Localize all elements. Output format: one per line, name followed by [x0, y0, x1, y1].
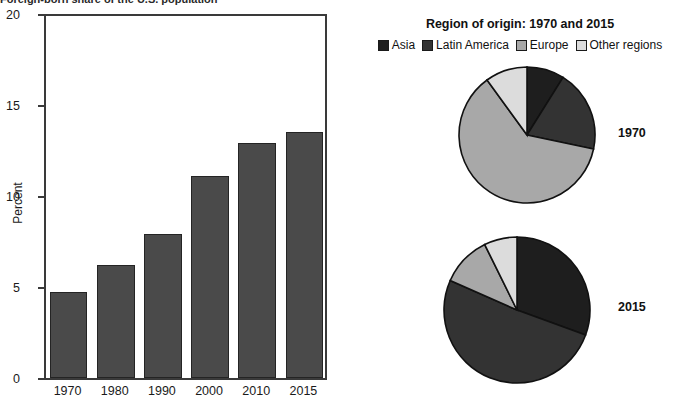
bar — [97, 265, 135, 378]
y-axis-tick-label: 5 — [0, 281, 20, 295]
pie-slices — [457, 65, 597, 205]
legend-label: Asia — [392, 38, 415, 52]
legend-item[interactable]: Other regions — [576, 38, 663, 52]
x-axis-tick-label: 2015 — [273, 384, 333, 398]
pie-slices — [442, 235, 592, 385]
legend-item[interactable]: Asia — [378, 38, 415, 52]
legend-label: Other regions — [590, 38, 663, 52]
bar — [191, 176, 229, 378]
legend-swatch-icon — [422, 40, 433, 51]
pie-legend: AsiaLatin AmericaEuropeOther regions — [350, 38, 690, 52]
legend-item[interactable]: Latin America — [422, 38, 509, 52]
legend-label: Europe — [530, 38, 569, 52]
pie-chart — [442, 235, 592, 385]
bar — [50, 292, 88, 378]
legend-swatch-icon — [576, 40, 587, 51]
y-axis-tick-label: 20 — [0, 8, 20, 22]
bar — [144, 234, 182, 378]
y-axis-tick-label: 0 — [0, 372, 20, 386]
y-axis-tick-label: 10 — [0, 190, 20, 204]
legend-label: Latin America — [436, 38, 509, 52]
bar-plot-area — [44, 14, 327, 380]
y-axis-tick-label: 15 — [0, 99, 20, 113]
bar — [238, 143, 276, 378]
legend-item[interactable]: Europe — [516, 38, 569, 52]
bar — [286, 132, 324, 378]
bar-chart: Percent 051015204.719706.219807.9199011.… — [0, 0, 350, 408]
legend-swatch-icon — [516, 40, 527, 51]
pie-year-label: 2015 — [618, 300, 646, 314]
pie-panel-title: Region of origin: 1970 and 2015 — [350, 17, 690, 31]
pie-panel: Region of origin: 1970 and 2015 AsiaLati… — [350, 0, 690, 408]
pie-year-label: 1970 — [618, 126, 646, 140]
pie-chart — [457, 65, 597, 205]
legend-swatch-icon — [378, 40, 389, 51]
